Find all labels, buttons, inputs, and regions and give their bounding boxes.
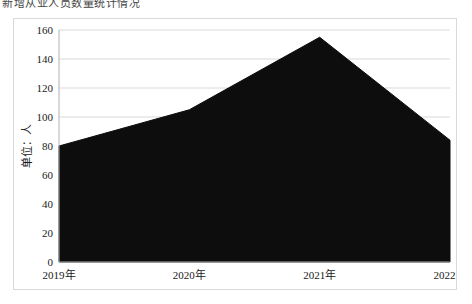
x-tick-label: 2020年 (173, 268, 206, 281)
x-axis-tick-labels: 2019年2020年2021年2022年 (43, 268, 457, 281)
y-tick-label: 0 (48, 256, 54, 268)
plot-area: 020406080100120140160 2019年2020年2021年202… (14, 19, 456, 289)
area-chart: 020406080100120140160 2019年2020年2021年202… (14, 19, 456, 289)
y-axis-tick-labels: 020406080100120140160 (37, 24, 54, 268)
y-tick-label: 40 (42, 198, 54, 210)
y-tick-label: 160 (37, 24, 54, 36)
x-tick-label: 2019年 (43, 268, 76, 281)
y-tick-label: 80 (42, 140, 54, 152)
y-tick-label: 140 (37, 53, 54, 65)
y-axis-title-text: 单位：人 (20, 124, 33, 168)
figure-caption: 新增从业人员数量统计情况 (2, 0, 140, 10)
area-series-path (59, 37, 450, 262)
area-series (59, 37, 450, 262)
y-tick-label: 60 (42, 169, 54, 181)
x-tick-label: 2021年 (303, 268, 336, 281)
y-tick-label: 20 (42, 227, 54, 239)
y-tick-label: 120 (37, 82, 54, 94)
x-tick-label: 2022年 (434, 268, 457, 281)
y-tick-label: 100 (37, 111, 54, 123)
y-axis-title: 单位：人 (20, 124, 33, 168)
chart-frame: 020406080100120140160 2019年2020年2021年202… (13, 18, 457, 290)
